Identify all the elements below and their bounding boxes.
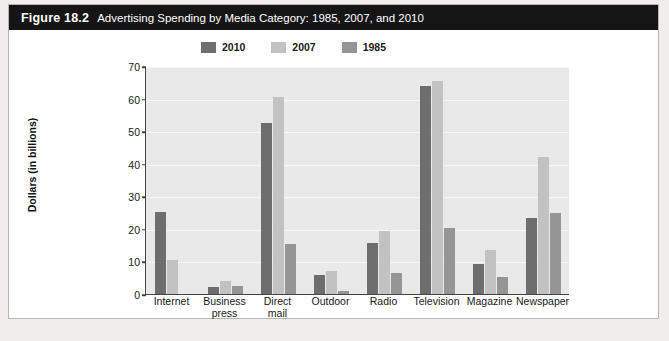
bar (285, 244, 297, 294)
x-axis-label-line: Outdoor (304, 295, 357, 307)
legend-label: 2007 (292, 41, 315, 53)
bar (391, 273, 403, 294)
bar (550, 213, 562, 294)
legend-swatch-icon (201, 42, 216, 53)
bar (220, 281, 232, 294)
x-axis-label: Newspaper (516, 295, 569, 307)
bar (261, 123, 273, 294)
bar (432, 81, 444, 294)
bars-layer (146, 67, 569, 294)
legend-swatch-icon (271, 42, 286, 53)
x-axis-label: Television (410, 295, 463, 307)
bar (526, 218, 538, 294)
chart-area: Dollars (in billions) 010203040506070 In… (9, 57, 658, 319)
y-tick-label: 0 (134, 289, 140, 301)
x-axis-label-line: Magazine (463, 295, 516, 307)
y-tick-label: 40 (128, 159, 140, 171)
legend-item-2007: 2007 (271, 41, 315, 53)
y-axis-title: Dollars (in billions) (26, 80, 38, 250)
chart-legend: 201020071985 (9, 37, 658, 57)
bar (367, 243, 379, 294)
bar-group (464, 67, 517, 294)
x-axis-label-line: press (198, 307, 251, 319)
legend-swatch-icon (342, 42, 357, 53)
bar (232, 286, 244, 294)
y-tick-label: 30 (128, 191, 140, 203)
bar (338, 291, 350, 294)
bar (473, 264, 485, 294)
bar (273, 97, 285, 294)
x-axis-label-line: Direct (251, 295, 304, 307)
plot-wrapper: 010203040506070 (105, 67, 569, 295)
x-axis-label-line: Newspaper (516, 295, 569, 307)
figure-number: Figure 18.2 (21, 11, 89, 25)
bar (155, 212, 167, 294)
bar (314, 275, 326, 294)
y-tick-label: 10 (128, 256, 140, 268)
figure-title-bar: Figure 18.2 Advertising Spending by Medi… (9, 5, 658, 30)
bar-group (411, 67, 464, 294)
x-axis-label: Directmail (251, 295, 304, 319)
x-axis-label: Internet (145, 295, 198, 307)
figure-title: Advertising Spending by Media Category: … (97, 12, 424, 24)
x-axis-label-line: Radio (357, 295, 410, 307)
legend-label: 2010 (222, 41, 245, 53)
bar (326, 271, 338, 294)
bar-group (199, 67, 252, 294)
y-tick-label: 60 (128, 94, 140, 106)
y-tick-label: 70 (128, 61, 140, 73)
x-axis-label: Magazine (463, 295, 516, 307)
y-tick-label: 50 (128, 126, 140, 138)
legend-label: 1985 (363, 41, 386, 53)
x-axis-label: Businesspress (198, 295, 251, 319)
x-axis-label-line: Internet (145, 295, 198, 307)
bar (167, 260, 179, 294)
plot-area: 010203040506070 (145, 67, 569, 295)
bar-group (517, 67, 570, 294)
bar (497, 277, 509, 294)
x-axis-label: Outdoor (304, 295, 357, 307)
bar-group (305, 67, 358, 294)
bar-group (252, 67, 305, 294)
bar (208, 287, 220, 294)
bar-group (146, 67, 199, 294)
bar-group (358, 67, 411, 294)
x-axis-labels: InternetBusinesspressDirectmailOutdoorRa… (145, 295, 569, 331)
bar (420, 86, 432, 294)
x-axis-label-line: Television (410, 295, 463, 307)
bar (379, 231, 391, 294)
bar (444, 228, 456, 294)
x-axis-label: Radio (357, 295, 410, 307)
x-axis-label-line: Business (198, 295, 251, 307)
bar (485, 250, 497, 294)
bar (538, 157, 550, 294)
x-axis-label-line: mail (251, 307, 304, 319)
legend-item-1985: 1985 (342, 41, 386, 53)
legend-item-2010: 2010 (201, 41, 245, 53)
figure-card: Figure 18.2 Advertising Spending by Medi… (8, 4, 659, 319)
y-tick-label: 20 (128, 224, 140, 236)
